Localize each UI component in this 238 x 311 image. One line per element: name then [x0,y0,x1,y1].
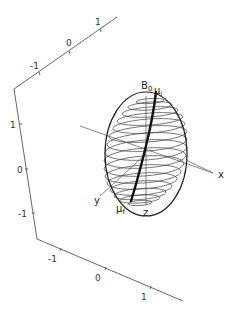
sphere-diagram: -1 0 1 1 0 -1 -1 0 1 [0,0,238,311]
top-tick-1: 1 [95,17,101,27]
z-label: z [143,207,148,218]
bottom-tick-0: 0 [95,273,101,283]
left-tick-0: 0 [17,165,23,175]
top-tick-0: 0 [66,38,72,48]
mu-trajectory [131,92,156,201]
x-label: x [218,169,224,180]
bottom-tick-1: 1 [141,292,147,302]
left-tick-1: 1 [10,120,16,130]
bottom-axis [37,239,183,301]
tick-labels: -1 0 1 1 0 -1 -1 0 1 [10,17,147,302]
top-tick--1: -1 [30,61,39,71]
top-axis [14,17,117,89]
left-tick--1: -1 [18,209,27,219]
b0-label: B0 [141,80,152,93]
bottom-tick--1: -1 [48,254,57,264]
mu-f-label: μf [116,203,125,216]
y-label: y [94,195,100,206]
